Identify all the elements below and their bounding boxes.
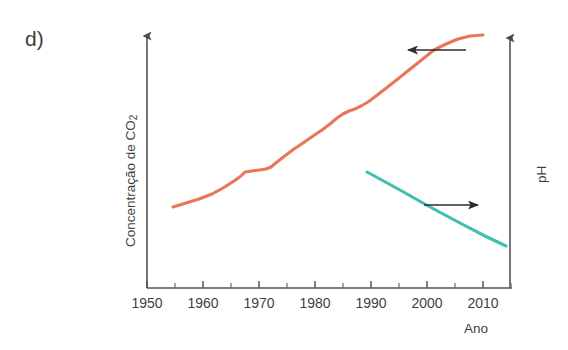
co2-ph-dual-axis-figure: d) Concentração de CO2 pH Ano 1950 1960 … xyxy=(0,0,568,350)
x-axis-major-ticks xyxy=(147,281,483,288)
plot-area xyxy=(0,0,568,350)
ph-line xyxy=(367,172,506,246)
co2-concentration-line xyxy=(173,35,483,207)
